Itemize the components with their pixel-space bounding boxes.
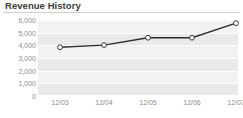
line-series-svg <box>38 20 238 96</box>
data-point-marker <box>58 45 63 50</box>
x-tick-label: 12/03 <box>51 99 69 107</box>
x-tick-label: 12/06 <box>183 99 201 107</box>
chart-header: Revenue History <box>0 0 243 14</box>
y-axis-labels: 6,000 5,000 4,000 3,000 2,000 1,000 0 <box>0 20 36 96</box>
y-tick-label: 5,000 <box>2 30 36 37</box>
revenue-history-chart-widget: Revenue History 6,000 5,000 4,000 3,000 … <box>0 0 243 118</box>
x-tick-label: 12/05 <box>139 99 157 107</box>
plot-area <box>38 20 238 96</box>
data-point-marker <box>102 43 107 48</box>
y-tick-label: 3,000 <box>2 55 36 62</box>
revenue-markers <box>58 21 239 50</box>
data-point-marker <box>234 21 239 26</box>
y-tick-label: 2,000 <box>2 68 36 75</box>
x-axis-labels: 12/03 12/04 12/05 12/06 12/07 <box>38 99 238 111</box>
header-divider <box>3 12 240 13</box>
y-tick-label: 6,000 <box>2 17 36 24</box>
data-point-marker <box>190 35 195 40</box>
y-tick-label: 4,000 <box>2 42 36 49</box>
y-tick-label: 0 <box>2 93 36 100</box>
x-tick-label: 12/07 <box>227 99 243 107</box>
y-tick-label: 1,000 <box>2 80 36 87</box>
x-tick-label: 12/04 <box>95 99 113 107</box>
page-title: Revenue History <box>5 0 81 12</box>
data-point-marker <box>146 35 151 40</box>
